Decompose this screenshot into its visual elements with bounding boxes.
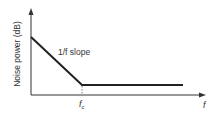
y-axis-label: Noise power (dB) — [12, 21, 22, 87]
noise-curve — [31, 37, 183, 85]
y-axis-arrow-icon — [29, 8, 34, 15]
x-axis-arrow-icon — [199, 93, 206, 98]
x-axis-label: f — [203, 100, 207, 110]
noise-spectrum-diagram: Noise power (dB) 1/f slope fc f — [0, 0, 215, 113]
slope-annotation: 1/f slope — [58, 47, 90, 57]
corner-frequency-label: fc — [79, 99, 85, 110]
